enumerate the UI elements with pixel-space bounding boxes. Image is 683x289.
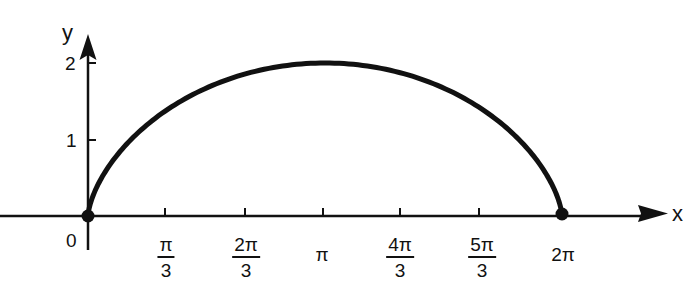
x-tick-label-4pi-over-3: 4π 3 xyxy=(386,235,414,280)
denominator: 3 xyxy=(477,258,488,280)
x-tick-label-2pi: 2π xyxy=(551,245,575,264)
denominator: 3 xyxy=(395,258,406,280)
numerator: 2π xyxy=(232,235,260,258)
origin-label: 0 xyxy=(66,231,77,250)
x-tick-label-pi: π xyxy=(315,245,328,264)
y-tick-label-1: 1 xyxy=(66,131,77,150)
end-point-dot xyxy=(556,208,569,221)
x-axis-label: x xyxy=(672,203,683,225)
x-tick-label-pi-over-3: π 3 xyxy=(157,235,174,280)
denominator: 3 xyxy=(241,258,252,280)
y-axis-label: y xyxy=(62,22,73,44)
x-tick-label-2pi-over-3: 2π 3 xyxy=(232,235,260,280)
denominator: 3 xyxy=(161,258,172,280)
x-axis-arrow-icon xyxy=(638,205,668,222)
numerator: 4π xyxy=(386,235,414,258)
y-tick-label-2: 2 xyxy=(65,54,76,73)
numerator: 5π xyxy=(468,235,496,258)
cycloid-curve xyxy=(88,63,562,216)
numerator: π xyxy=(157,235,174,258)
cycloid-chart xyxy=(0,0,683,289)
x-tick-label-5pi-over-3: 5π 3 xyxy=(468,235,496,280)
start-point-dot xyxy=(82,210,95,223)
